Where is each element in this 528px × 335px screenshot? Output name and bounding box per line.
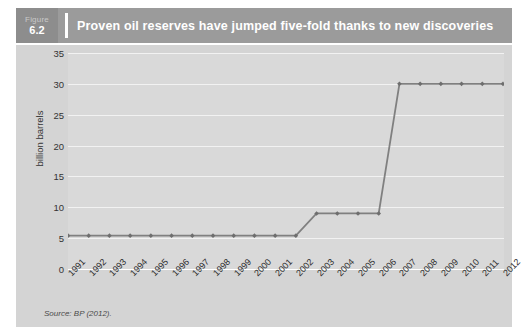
- header-divider: [65, 13, 68, 38]
- data-point-marker: [211, 233, 216, 238]
- data-point-marker: [418, 82, 423, 87]
- data-point-marker: [439, 82, 444, 87]
- data-point-marker: [501, 82, 504, 87]
- data-point-marker: [169, 233, 174, 238]
- y-tick-label: 30: [38, 78, 64, 89]
- data-point-marker: [459, 82, 464, 87]
- data-point-marker: [356, 211, 361, 216]
- data-point-marker: [376, 211, 381, 216]
- data-point-marker: [149, 233, 154, 238]
- chart-frame: billion barrels 05101520253035 199119921…: [16, 45, 512, 327]
- y-tick-label: 25: [38, 109, 64, 120]
- data-point-marker: [480, 82, 485, 87]
- data-point-marker: [273, 233, 278, 238]
- series-line-chart: [68, 53, 504, 269]
- source-note: Source: BP (2012).: [44, 309, 112, 318]
- data-point-marker: [68, 233, 70, 238]
- data-point-marker: [190, 233, 195, 238]
- y-tick-label: 10: [38, 202, 64, 213]
- data-point-marker: [397, 82, 402, 87]
- data-point-marker: [252, 233, 257, 238]
- figure-number: 6.2: [29, 24, 44, 36]
- x-tick-label: 2012: [501, 257, 522, 278]
- y-tick-label: 20: [38, 140, 64, 151]
- plot-area: [68, 53, 504, 269]
- data-point-marker: [231, 233, 236, 238]
- data-point-marker: [86, 233, 91, 238]
- data-point-marker: [107, 233, 112, 238]
- figure-label-word: Figure: [25, 15, 49, 24]
- figure-header-bar: Figure 6.2 Proven oil reserves have jump…: [16, 8, 512, 43]
- y-tick-label: 5: [38, 233, 64, 244]
- series-line: [68, 84, 503, 236]
- y-tick-label: 0: [38, 264, 64, 275]
- data-point-marker: [128, 233, 133, 238]
- y-axis-tick-labels: 05101520253035: [38, 53, 64, 269]
- figure-number-block: Figure 6.2: [16, 8, 58, 43]
- y-tick-label: 15: [38, 171, 64, 182]
- y-tick-label: 35: [38, 48, 64, 59]
- figure-container: Figure 6.2 Proven oil reserves have jump…: [0, 0, 528, 335]
- data-point-marker: [335, 211, 340, 216]
- x-axis-tick-labels: 1991199219931994199519961997199819992000…: [68, 271, 504, 317]
- figure-title: Proven oil reserves have jumped five-fol…: [77, 19, 493, 33]
